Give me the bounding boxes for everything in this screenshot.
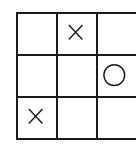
cell-r1-c3[interactable]	[96, 12, 136, 56]
cell-r2-c3[interactable]	[96, 54, 136, 98]
cell-r1-c1[interactable]	[16, 12, 58, 56]
tic-tac-toe-board	[16, 12, 136, 138]
cell-r3-c3[interactable]	[96, 96, 136, 140]
cell-r3-c2[interactable]	[56, 96, 98, 140]
cell-r3-c1[interactable]	[16, 96, 58, 140]
o-mark-icon	[98, 56, 136, 96]
x-mark-icon	[18, 98, 56, 138]
cell-r2-c1[interactable]	[16, 54, 58, 98]
x-mark-icon	[58, 14, 96, 54]
cell-r1-c2[interactable]	[56, 12, 98, 56]
cell-r2-c2[interactable]	[56, 54, 98, 98]
